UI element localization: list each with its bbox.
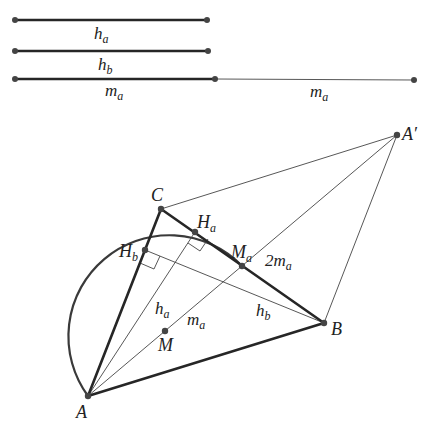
point-C	[158, 206, 164, 212]
label-2ma: 2ma	[265, 251, 292, 273]
legend-label-ha: ha	[94, 24, 109, 46]
label-A-prime: A′	[401, 124, 418, 144]
point-M	[162, 328, 168, 334]
point-A-prime	[394, 132, 400, 138]
label-M: M	[157, 335, 174, 355]
legend-label-ma: ma	[105, 81, 123, 103]
line-B-Aprime	[324, 135, 397, 323]
label-hb: hb	[256, 301, 271, 323]
construction-diagram: ha hb ma ma A B C A′ M	[0, 0, 435, 431]
label-ha: ha	[155, 299, 170, 321]
label-ma: ma	[187, 310, 205, 332]
point-labels: A B C A′ M Ma Ha Hb	[75, 124, 418, 422]
label-Ma: Ma	[230, 242, 252, 265]
side-AB	[88, 323, 324, 396]
endpoint	[205, 48, 211, 54]
endpoint	[12, 48, 18, 54]
point-Ma	[239, 263, 245, 269]
side-AC	[88, 209, 161, 396]
label-Ha: Ha	[196, 212, 216, 235]
label-Hb: Hb	[118, 241, 138, 264]
segment-ma-extension	[215, 79, 414, 80]
endpoint	[12, 76, 18, 82]
line-C-Aprime	[161, 135, 397, 209]
point-A	[85, 393, 91, 399]
label-A: A	[75, 402, 88, 422]
segment-labels: ha ma hb 2ma	[155, 251, 292, 332]
legend-label-hb: hb	[98, 55, 113, 77]
legend-segments: ha hb ma ma	[12, 17, 417, 104]
label-C: C	[151, 185, 164, 205]
endpoint	[212, 76, 218, 82]
endpoint	[12, 17, 18, 23]
endpoint	[204, 17, 210, 23]
label-B: B	[331, 319, 342, 339]
endpoint	[411, 77, 417, 83]
triangle-ABC	[88, 209, 324, 396]
point-B	[321, 320, 327, 326]
point-Hb	[142, 247, 148, 253]
legend-label-ma-2: ma	[310, 82, 328, 104]
